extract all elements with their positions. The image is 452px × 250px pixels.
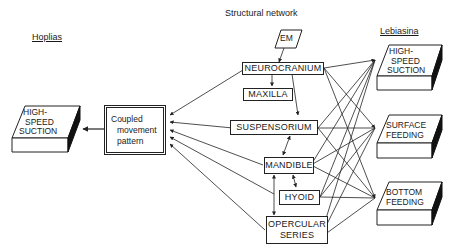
leb1-line-3: SUCTION bbox=[387, 66, 425, 76]
lebiasina-label: Lebiasina bbox=[380, 26, 419, 36]
coupled-line-3: pattern bbox=[111, 136, 159, 147]
hoplias-label: Hoplias bbox=[32, 32, 62, 42]
node-suspensorium: SUSPENSORIUM bbox=[230, 120, 318, 135]
hoplias-line-3: SUCTION bbox=[19, 127, 57, 137]
lebiasina-high-speed-suction: HIGH- SPEED SUCTION bbox=[389, 47, 425, 76]
node-maxilla: MAXILLA bbox=[243, 88, 293, 101]
lebiasina-bottom-feeding: BOTTOM FEEDING bbox=[386, 188, 424, 207]
node-neurocranium: NEUROCRANIUM bbox=[242, 62, 324, 75]
opercular-line-1: OPERCULAR bbox=[268, 219, 326, 230]
coupled-line-1: Coupled bbox=[111, 114, 159, 125]
leb2-line-2: FEEDING bbox=[386, 131, 426, 141]
leb3-line-2: FEEDING bbox=[386, 198, 424, 208]
node-hyoid: HYOID bbox=[279, 190, 320, 205]
diagram-connections bbox=[0, 0, 452, 250]
structural-network-title: Structural network bbox=[225, 8, 298, 18]
node-mandible: MANDIBLE bbox=[264, 157, 314, 174]
hoplias-high-speed-suction: HIGH- SPEED SUCTION bbox=[23, 108, 57, 137]
lebiasina-surface-feeding: SURFACE FEEDING bbox=[386, 121, 426, 140]
coupled-line-2: movement bbox=[111, 125, 159, 136]
opercular-line-2: SERIES bbox=[280, 230, 314, 241]
em-label: EM bbox=[280, 33, 293, 43]
node-opercular-series: OPERCULAR SERIES bbox=[266, 216, 328, 244]
coupled-movement-pattern-box: Coupled movement pattern bbox=[104, 105, 166, 155]
